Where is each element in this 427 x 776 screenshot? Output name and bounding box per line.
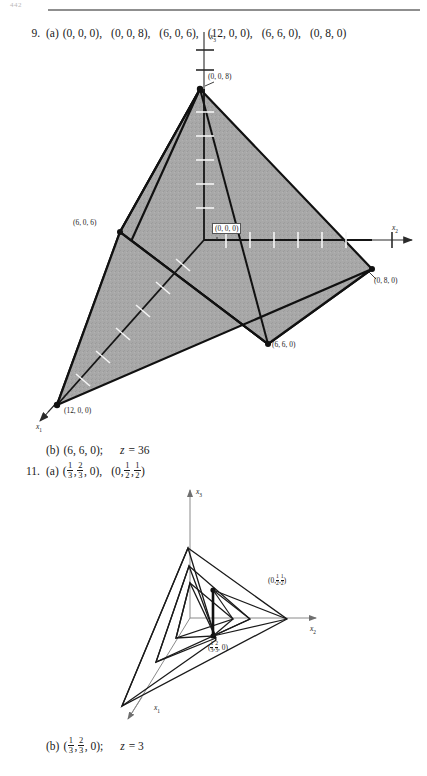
figure2-triangle-6	[176, 583, 215, 638]
frac-one-half-a: 12	[124, 461, 130, 479]
exercise-11-part-b-point: (13,23, 0);	[63, 736, 112, 754]
figure2-label-third-twothirds-0: (13,23, 0)	[208, 641, 228, 654]
exercise-11-part-a-label: (a)	[40, 465, 63, 477]
figure-exercise-11: (0,12,12) (13,23, 0) x3 x2 x1	[120, 478, 427, 728]
figure2-triangle-outer-2	[122, 548, 216, 706]
exercise-9-z-value: = 36	[125, 444, 150, 456]
frac-two-thirds-b: 23	[78, 736, 84, 754]
exercise-9-part-b-label: (b)	[40, 444, 63, 456]
exercise-11-z-value: = 3	[125, 740, 144, 752]
figure2-triangle-5	[176, 583, 233, 638]
exercise-11-number: 11.	[18, 465, 40, 477]
figure2-axis-label-x3: x3	[196, 487, 202, 498]
header-rule	[48, 9, 420, 11]
frac-one-third: 13	[67, 461, 73, 479]
figure1-axis-label-x1: x1	[36, 422, 42, 433]
figure1-label-12-0-0: (12, 0, 0)	[64, 407, 91, 414]
frac-one-third-b: 13	[68, 736, 74, 754]
figure1-axis-label-x3: x3	[210, 32, 216, 43]
figure1-label-0-0-0: (0, 0, 0)	[212, 223, 241, 234]
frac-two-thirds: 23	[77, 461, 83, 479]
figure2-label-0-half-half: (0,12,12)	[268, 574, 286, 587]
figure2-triangle-3	[156, 566, 250, 662]
exercise-11-tuple-1: (13,23, 0),	[63, 461, 111, 479]
answer-key-page: 442 9.(a)(0, 0, 0),(0, 0, 8),(6, 0, 6),(…	[0, 0, 427, 776]
figure1-label-0-8-0: (0, 8, 0)	[374, 277, 397, 284]
exercise-11-line-b: (b)(13,23, 0);z= 3	[18, 736, 144, 754]
figure2-axis-label-x2: x2	[310, 624, 316, 635]
exercise-9-z-var: z	[112, 444, 124, 456]
exercise-11-tuple-2: (0,12,12)	[111, 461, 154, 479]
exercise-11-line-a: 11.(a)(13,23, 0),(0,12,12)	[18, 461, 154, 479]
page-folio: 442	[10, 1, 22, 9]
figure1-axis-label-x2: x2	[392, 223, 398, 234]
figure-exercise-9: (0, 0, 8) (6, 0, 6) (0, 0, 0) (0, 8, 0) …	[0, 26, 427, 426]
exercise-11-z-var: z	[112, 740, 124, 752]
frac-one-half-b: 12	[134, 461, 140, 479]
figure2-triangle-outer-1	[122, 548, 287, 706]
figure1-label-6-6-0: (6, 6, 0)	[272, 341, 295, 348]
exercise-11-part-b-label: (b)	[40, 740, 63, 752]
exercise-9-line-b: (b)(6, 6, 0);z= 36	[18, 444, 149, 456]
figure1-label-0-0-8: (0, 0, 8)	[208, 73, 231, 80]
figure2-axes	[128, 490, 316, 719]
exercise-9-part-b-point: (6, 6, 0);	[63, 444, 112, 456]
figure2-axis-label-x1: x1	[154, 703, 160, 714]
figure1-label-6-0-6: (6, 0, 6)	[73, 219, 96, 226]
